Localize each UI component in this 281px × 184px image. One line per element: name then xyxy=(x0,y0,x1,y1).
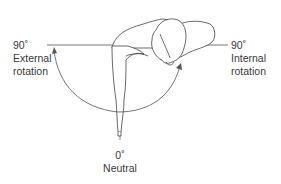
external-line1: External xyxy=(13,52,52,65)
external-line2: rotation xyxy=(13,65,52,78)
neutral-angle: 0˚ xyxy=(100,149,140,162)
shoulder-rotation-diagram xyxy=(0,0,281,184)
arrowhead-internal-icon xyxy=(176,63,182,70)
arm-illustration xyxy=(112,46,148,136)
internal-angle: 90˚ xyxy=(231,39,266,52)
arrowhead-external-icon xyxy=(52,47,57,54)
neutral-line1: Neutral xyxy=(100,162,140,175)
label-internal-rotation: 90˚ Internal rotation xyxy=(231,39,266,78)
internal-line1: Internal xyxy=(231,52,266,65)
internal-line2: rotation xyxy=(231,65,266,78)
label-neutral: 0˚ Neutral xyxy=(100,149,140,175)
external-angle: 90˚ xyxy=(13,39,52,52)
label-external-rotation: 90˚ External rotation xyxy=(13,39,52,78)
